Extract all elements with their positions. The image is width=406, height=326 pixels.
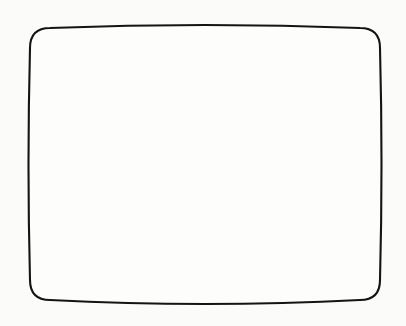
hatched-shape-svg <box>0 0 406 326</box>
rounded-rectangle-outline <box>29 25 382 304</box>
figure-canvas <box>0 0 406 326</box>
